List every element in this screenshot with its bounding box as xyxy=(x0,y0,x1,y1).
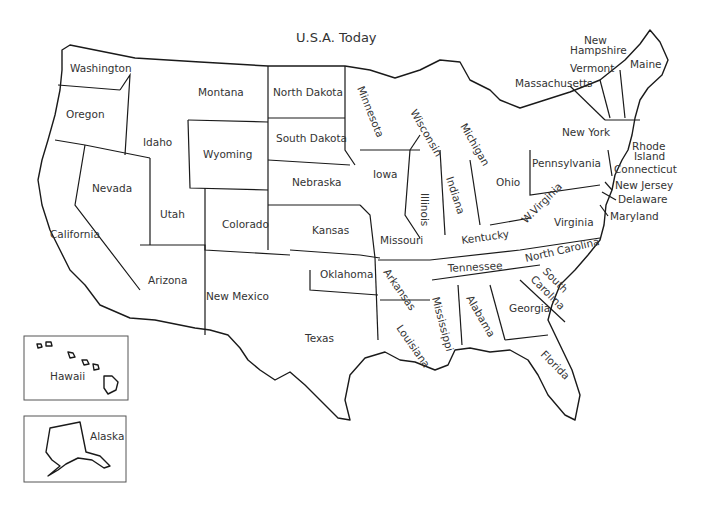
label-maine: Maine xyxy=(630,58,662,70)
label-new-mexico: New Mexico xyxy=(206,290,269,302)
label-nevada: Nevada xyxy=(92,182,132,194)
label-new-jersey: New Jersey xyxy=(615,179,673,191)
label-virginia: Virginia xyxy=(554,216,594,228)
label-oregon: Oregon xyxy=(66,108,105,120)
label-idaho: Idaho xyxy=(143,136,172,148)
label-utah: Utah xyxy=(160,208,185,220)
alaska-inset: Alaska xyxy=(24,416,126,482)
usa-map: U.S.A. Today xyxy=(0,0,706,506)
label-vermont: Vermont xyxy=(570,62,614,74)
label-montana: Montana xyxy=(198,86,244,98)
label-new-york: New York xyxy=(562,126,611,138)
label-arizona: Arizona xyxy=(148,274,187,286)
label-california: California xyxy=(50,228,100,240)
label-washington: Washington xyxy=(70,62,132,74)
label-colorado: Colorado xyxy=(222,218,269,230)
label-massachusetts: Massachusetts xyxy=(515,77,593,89)
label-missouri: Missouri xyxy=(380,234,423,246)
label-hawaii: Hawaii xyxy=(50,370,85,382)
label-illinois: Illinois xyxy=(419,193,431,226)
label-pennsylvania: Pennsylvania xyxy=(532,157,601,169)
label-kansas: Kansas xyxy=(312,224,349,236)
label-connecticut: Connecticut xyxy=(614,163,677,175)
label-georgia: Georgia xyxy=(509,302,550,314)
label-rhode-island-2: Island xyxy=(634,150,665,162)
label-maryland: Maryland xyxy=(610,210,659,222)
label-ohio: Ohio xyxy=(496,176,520,188)
hawaii-inset: Hawaii xyxy=(24,336,128,400)
label-texas: Texas xyxy=(304,332,334,344)
map-title: U.S.A. Today xyxy=(296,30,377,45)
label-wyoming: Wyoming xyxy=(203,148,252,160)
label-north-dakota: North Dakota xyxy=(273,86,343,98)
label-oklahoma: Oklahoma xyxy=(320,268,373,280)
label-nebraska: Nebraska xyxy=(292,176,342,188)
label-alaska: Alaska xyxy=(90,430,124,442)
label-new-hampshire-2: Hampshire xyxy=(570,44,627,56)
label-delaware: Delaware xyxy=(618,193,667,205)
label-south-dakota: South Dakota xyxy=(276,132,347,144)
label-iowa: Iowa xyxy=(373,168,398,180)
